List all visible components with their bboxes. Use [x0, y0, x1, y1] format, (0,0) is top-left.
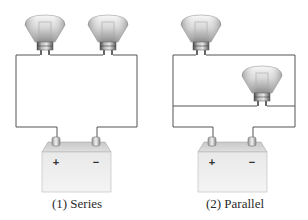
- parallel-circuit: + −: [173, 15, 295, 192]
- bulb-1: [25, 15, 65, 55]
- series-circuit: + −: [16, 15, 137, 192]
- circuit-diagram: + − + −: [0, 0, 308, 220]
- bulb-a: [181, 15, 221, 55]
- bulb-b: [242, 66, 282, 106]
- parallel-caption: (2) Parallel: [175, 196, 295, 212]
- negative-terminal-label: −: [249, 156, 255, 168]
- negative-terminal-label: −: [93, 156, 99, 168]
- positive-terminal-label: +: [53, 156, 59, 168]
- bulb-2: [88, 15, 128, 55]
- series-caption: (1) Series: [17, 196, 137, 212]
- series-wires: [16, 55, 137, 139]
- parallel-wires: [173, 55, 295, 139]
- positive-terminal-label: +: [209, 156, 215, 168]
